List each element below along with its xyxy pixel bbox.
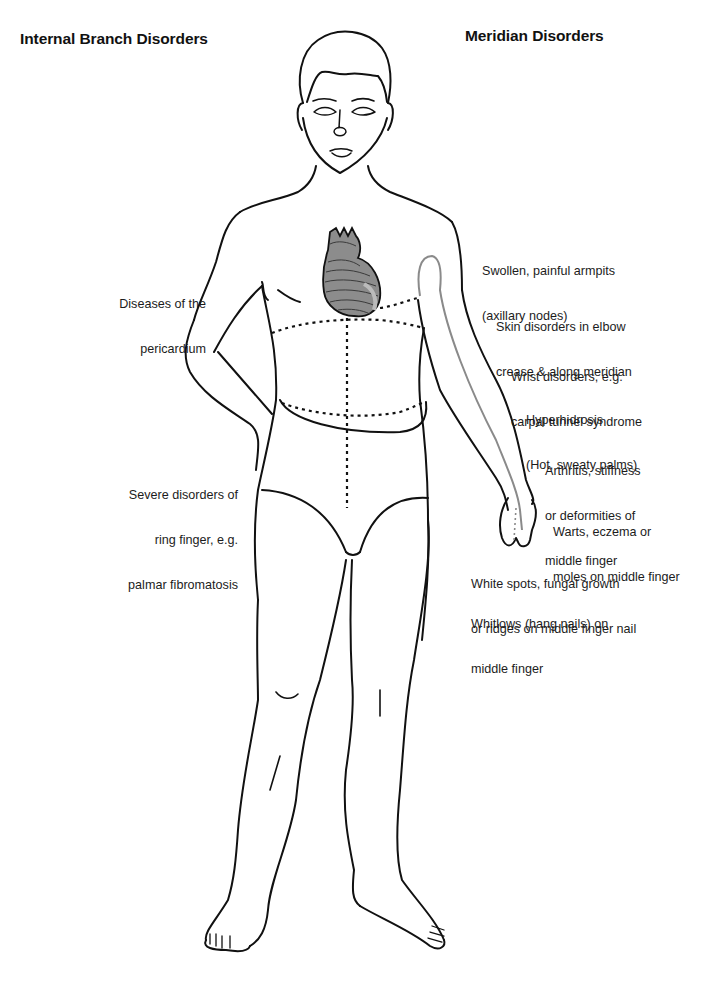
label-line: middle finger (471, 662, 608, 677)
label-ring-finger: Severe disorders of ring finger, e.g. pa… (60, 458, 238, 608)
crotch (346, 552, 360, 555)
briefs-left-leg (262, 490, 346, 552)
right-eye (352, 108, 375, 116)
label-line: ring finger, e.g. (60, 533, 238, 548)
label-line: pericardium (40, 342, 206, 357)
label-pericardium: Diseases of the pericardium (40, 267, 206, 372)
neck-right (368, 166, 452, 222)
right-forearm (218, 352, 272, 414)
middle-finger-meridian (514, 508, 516, 540)
left-ear (298, 103, 303, 130)
right-pec (278, 290, 300, 302)
right-leg-outer (206, 600, 258, 940)
face-outline (303, 118, 387, 173)
left-brow (313, 99, 336, 101)
left-eye (314, 108, 336, 116)
left-hand (500, 498, 536, 546)
right-ear (388, 103, 393, 130)
label-line: Whitlows (hang nails) on (471, 617, 608, 632)
label-line: palmar fibromatosis (60, 578, 238, 593)
left-shoulder (452, 222, 462, 290)
label-whitlows: Whitlows (hang nails) on middle finger (471, 587, 608, 692)
hair-line (307, 72, 387, 102)
right-toes (210, 934, 230, 948)
label-line: Hyperhidrosis (526, 413, 637, 428)
label-line: Skin disorders in elbow (496, 320, 632, 335)
right-shin-mark (270, 756, 280, 790)
label-line: Warts, eczema or (553, 525, 680, 540)
left-leg-outer (397, 520, 444, 940)
right-foot (205, 940, 250, 951)
label-line: Severe disorders of (60, 488, 238, 503)
right-brow (352, 99, 374, 101)
neck-left (240, 166, 316, 212)
left-foot (360, 906, 444, 948)
left-leg-inner (345, 560, 360, 906)
right-knee (276, 692, 298, 698)
heart-icon (323, 228, 380, 316)
right-leg-inner (250, 560, 346, 946)
briefs-right-leg (360, 498, 428, 552)
waist-dotted-line (282, 402, 424, 416)
label-line: Swollen, painful armpits (482, 264, 615, 279)
heart-to-arm-dotted-line (380, 298, 418, 308)
label-line: Arthritis, stiffness (545, 464, 641, 479)
label-line: Diseases of the (40, 297, 206, 312)
right-arm-inner (214, 286, 262, 352)
head-outline (300, 32, 391, 103)
nose (334, 110, 346, 136)
mouth (330, 149, 352, 157)
